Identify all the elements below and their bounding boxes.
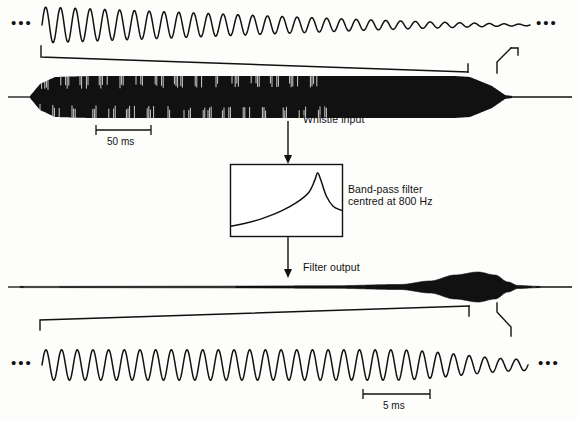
filter-output-envelope: [8, 272, 572, 302]
expanded-filter-output-waveform: [42, 350, 528, 380]
expanded-whistle-input-waveform: [42, 7, 530, 42]
filter-output-label: Filter output: [303, 261, 360, 273]
ellipsis-left-bottom: •••: [11, 357, 33, 369]
whistle-filter-figure: ••• ••• Whistle input Band-pass filter c…: [0, 0, 578, 422]
filter-label-line2: centred at 800 Hz: [348, 195, 433, 207]
whistle-input-arrow: [284, 121, 292, 164]
scale-bar-50ms: [96, 125, 151, 135]
ellipsis-right-bottom: •••: [538, 357, 560, 369]
figure-canvas: [0, 0, 578, 422]
ellipsis-left-top: •••: [11, 17, 33, 29]
filter-label-line1: Band-pass filter: [348, 183, 423, 195]
filter-output-arrow: [284, 237, 292, 278]
band-pass-filter-box: [231, 165, 343, 237]
bottom-right-expansion-bracket: [497, 303, 511, 336]
top-right-expansion-bracket: [497, 48, 518, 73]
ellipsis-right-top: •••: [536, 17, 558, 29]
scale-bar-5ms: [363, 389, 430, 399]
scale-bar-50ms-label: 50 ms: [107, 136, 134, 147]
top-left-expansion-bracket: [41, 46, 468, 72]
scale-bar-5ms-label: 5 ms: [383, 400, 405, 411]
bottom-left-expansion-bracket: [40, 306, 469, 330]
whistle-input-label: Whistle input: [303, 113, 364, 125]
whistle-input-envelope: [8, 76, 572, 118]
